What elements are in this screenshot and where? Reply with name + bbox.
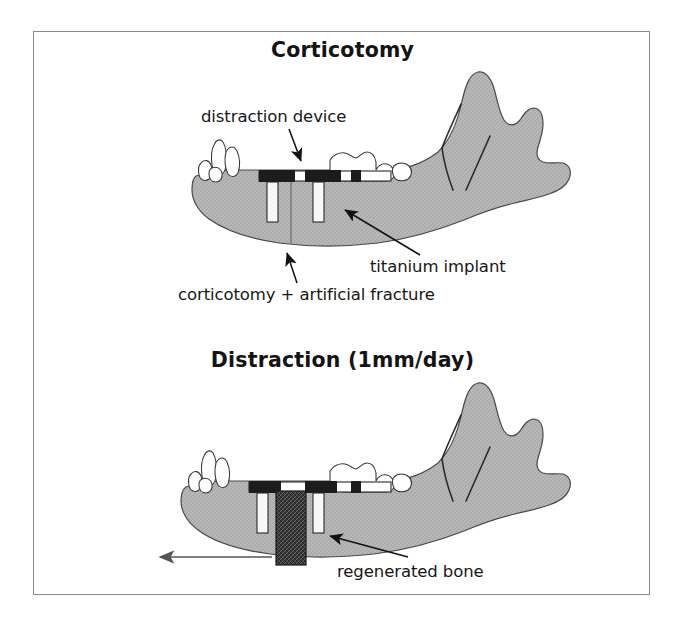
titanium-implant-post-right [313,182,324,222]
tooth-posterior-molar-distracted [393,474,412,492]
tooth-anterior-2-distracted [215,458,229,488]
titanium-implant-post-right-distracted [313,493,324,533]
titanium-implant-post-left-distracted [257,493,268,533]
titanium-implant-post-left [267,182,278,222]
tooth-anterior-4-distracted [199,478,212,493]
panel-corticotomy-graphic [192,72,570,283]
regenerated-bone-block [276,491,306,565]
device-clamp-right-distracted [305,481,337,493]
panel-distraction-graphic [160,383,570,565]
device-clamp-left [259,170,295,182]
arrow-distraction-device [289,129,301,161]
mandible-bone-shape [192,72,570,246]
figure-root: Corticotomy Distraction (1mm/day) distra… [0,0,685,625]
tooth-anterior-4 [209,167,222,182]
arrow-corticotomy-fracture [287,253,297,283]
device-clamp-far-right [351,170,361,182]
illustration-svg [0,0,685,625]
device-clamp-far-right-distracted [351,481,361,493]
tooth-anterior-2 [225,147,239,177]
tooth-posterior-molar [393,163,412,181]
device-clamp-right [305,170,341,182]
